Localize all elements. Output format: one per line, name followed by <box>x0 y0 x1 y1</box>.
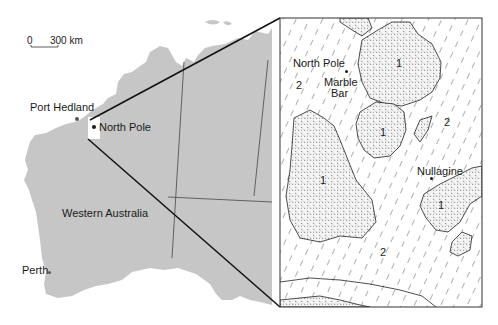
unit-label-2: 2 <box>380 247 386 258</box>
place-marker-north-pole <box>92 125 96 129</box>
unit-label-1: 1 <box>396 58 402 69</box>
place-label-port-hedland: Port Hedland <box>30 102 94 113</box>
inset-label-north-pole: North Pole <box>293 58 345 69</box>
place-label-north-pole: North Pole <box>99 122 151 133</box>
place-label-perth: Perth <box>22 265 48 276</box>
scale-bar-end-label: 300 km <box>50 36 83 46</box>
unit-label-1: 1 <box>320 175 326 186</box>
place-marker-marble-bar <box>345 70 348 73</box>
place-marker-nullagine <box>430 177 433 180</box>
map-figure <box>0 0 498 325</box>
unit-label-2: 2 <box>444 117 450 128</box>
place-marker-port-hedland <box>75 117 79 121</box>
inset-label-bar: Bar <box>331 88 348 99</box>
place-marker-perth <box>48 271 51 274</box>
scale-bar-start-label: 0 <box>27 36 33 46</box>
unit-label-1: 1 <box>438 200 444 211</box>
australia-landmass <box>24 28 272 305</box>
unit-label-1: 1 <box>380 127 386 138</box>
unit-label-2: 2 <box>296 80 302 91</box>
inset-label-nullagine: Nullagine <box>417 166 463 177</box>
region-label-western-australia: Western Australia <box>62 208 148 219</box>
